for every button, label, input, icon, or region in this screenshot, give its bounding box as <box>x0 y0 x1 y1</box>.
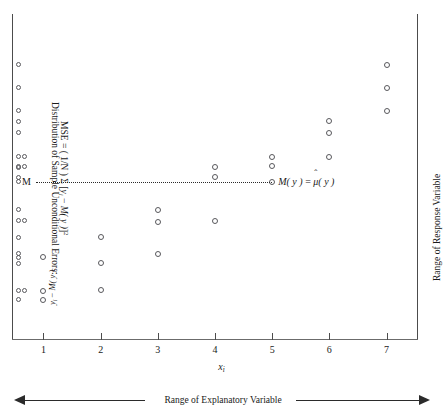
marginal-distribution-marker <box>16 154 21 159</box>
marginal-distribution-marker <box>16 62 21 67</box>
marginal-distribution-marker <box>22 218 27 223</box>
x-tick-label: 2 <box>90 344 112 356</box>
x-tick-mark <box>215 333 216 340</box>
x-tick-label: 1 <box>32 344 54 356</box>
x-tick-label: 7 <box>376 344 398 356</box>
x-tick-mark <box>101 333 102 340</box>
x-tick-label: 6 <box>318 344 340 356</box>
open-circle-marker <box>326 118 332 124</box>
x-axis-label: xi <box>0 361 443 376</box>
mean-label-right-arg1: ( y ) <box>287 176 303 187</box>
range-line-right <box>296 400 420 401</box>
open-circle-marker <box>98 287 104 293</box>
hat-accent-icon: ˆ <box>313 169 318 178</box>
x-tick-label: 3 <box>147 344 169 356</box>
marginal-distribution-marker <box>16 218 21 223</box>
residual-y: y <box>47 301 57 305</box>
explanatory-range-indicator: Range of Explanatory Variable <box>14 392 430 410</box>
mean-label-right-prefix: M <box>278 176 286 187</box>
x-tick-mark <box>329 333 330 340</box>
open-circle-marker <box>212 218 218 224</box>
scatter-plot-frame: 1234567 M M( y ) = ˆμ( y ) Distribution … <box>12 14 418 340</box>
marginal-distribution-marker <box>22 288 27 293</box>
mse-label: MSE <box>59 121 69 141</box>
marginal-distribution-marker <box>16 85 21 90</box>
open-circle-marker <box>326 130 332 136</box>
mse-minus: − <box>59 198 69 203</box>
mean-label-left: M <box>22 176 31 188</box>
residual-my: M( y ) <box>47 270 57 291</box>
open-circle-marker <box>155 207 161 213</box>
x-tick-mark <box>272 333 273 340</box>
marginal-distribution-marker <box>22 154 27 159</box>
open-circle-marker <box>98 260 104 266</box>
sigma-symbol: Σ <box>59 178 69 184</box>
open-circle-marker <box>326 154 332 160</box>
open-circle-marker <box>269 163 275 169</box>
open-circle-marker <box>384 85 390 91</box>
marginal-distribution-marker <box>16 207 21 212</box>
mse-equals: = <box>59 143 69 148</box>
residual-minus: − <box>47 293 57 298</box>
marginal-distribution-marker <box>16 288 21 293</box>
open-circle-marker <box>384 108 390 114</box>
x-tick-mark <box>387 333 388 340</box>
marginal-distribution-marker <box>16 119 21 124</box>
residual-numerator-text: yi − M( y ) <box>48 269 58 306</box>
open-circle-marker <box>40 297 46 303</box>
mean-label-right: M( y ) = ˆμ( y ) <box>278 175 334 188</box>
mse-exponent: 2 <box>63 232 70 235</box>
plot-left-axis <box>12 14 13 340</box>
open-circle-marker <box>98 234 104 240</box>
marginal-distribution-marker <box>22 164 27 169</box>
plot-right-axis <box>417 14 418 340</box>
mean-label-right-equals: = <box>305 176 311 187</box>
x-axis-range-caption: Range of Explanatory Variable <box>145 393 301 407</box>
open-circle-marker <box>40 288 46 294</box>
residual-expression-wrapper: yi − M( y ) <box>48 0 88 106</box>
open-circle-marker <box>155 219 161 225</box>
open-circle-marker <box>155 251 161 257</box>
mean-label-right-arg2: ( y ) <box>318 176 334 187</box>
x-tick-mark <box>158 333 159 340</box>
y-axis-range-caption: Range of Response Variable <box>432 174 443 281</box>
marginal-distribution-marker <box>16 297 21 302</box>
marginal-distribution-marker <box>16 179 21 184</box>
mu-hat-symbol: ˆμ <box>313 175 318 188</box>
range-line-left <box>24 400 149 401</box>
mse-factor: ( 1/N ) <box>59 151 69 176</box>
x-tick-mark <box>43 333 44 340</box>
x-tick-label: 5 <box>261 344 283 356</box>
open-circle-marker <box>212 174 218 180</box>
marginal-distribution-marker <box>16 261 21 266</box>
marginal-distribution-marker <box>16 108 21 113</box>
x-tick-label: 4 <box>204 344 226 356</box>
open-circle-marker <box>212 164 218 170</box>
residual-numerator: yi − M( y ) <box>48 269 58 306</box>
x-axis-label-subscript: i <box>223 366 225 374</box>
residual-y-subscript: i <box>51 300 57 302</box>
marginal-distribution-marker <box>16 165 21 170</box>
marginal-distribution-marker <box>16 130 21 135</box>
open-circle-marker <box>40 254 46 260</box>
residual-expression: yi − M( y ) <box>48 106 59 306</box>
arrow-right-icon <box>419 395 430 405</box>
open-circle-marker <box>269 154 275 160</box>
mse-my: M( y ) <box>59 206 69 229</box>
open-circle-marker <box>384 62 390 68</box>
marginal-distribution-marker <box>16 235 21 240</box>
marginal-distribution-marker <box>16 255 21 260</box>
